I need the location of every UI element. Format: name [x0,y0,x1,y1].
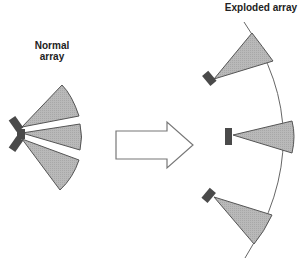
normal-array [9,85,82,190]
speaker-bottom [201,188,215,203]
exploded-array [201,22,294,258]
beam-top [22,85,79,127]
speaker-cluster [9,116,25,152]
speaker-middle [225,128,232,145]
diagram-canvas [0,0,302,269]
arrow-icon [116,122,193,168]
speaker-top [202,71,216,86]
beam-bottom [214,197,272,244]
beam-middle [233,121,294,153]
beam-top [214,33,273,79]
